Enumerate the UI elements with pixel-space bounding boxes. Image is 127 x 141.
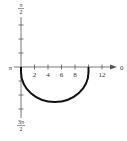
angle-label-zero: 0 — [120, 64, 124, 72]
svg-text:2: 2 — [20, 9, 23, 15]
tick-label-4: 4 — [46, 71, 50, 79]
polar-chart: 2 4 6 8 12 π 0 π 2 3π 2 — [0, 0, 127, 141]
tick-label-6: 6 — [60, 71, 64, 79]
tick-label-2: 2 — [33, 71, 37, 79]
svg-text:π: π — [19, 2, 22, 8]
tick-label-12: 12 — [99, 71, 107, 79]
svg-text:3π: 3π — [18, 119, 24, 125]
svg-text:2: 2 — [20, 126, 23, 132]
polar-axis-arrow-icon — [110, 65, 117, 70]
angle-label-3pi-over-2: 3π 2 — [17, 119, 25, 132]
tick-label-8: 8 — [73, 71, 77, 79]
polar-curve — [21, 67, 89, 102]
angle-label-pi-over-2: π 2 — [18, 2, 24, 15]
angle-label-pi: π — [8, 64, 12, 72]
